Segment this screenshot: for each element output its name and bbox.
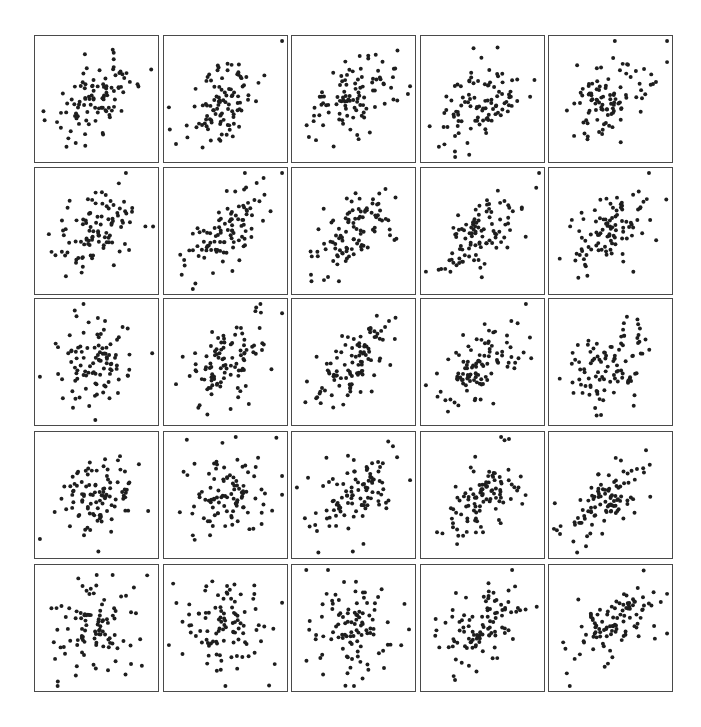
data-point xyxy=(608,97,612,101)
data-point xyxy=(489,371,493,375)
data-point xyxy=(588,532,592,536)
data-point xyxy=(596,370,600,374)
data-point xyxy=(486,608,490,612)
data-point xyxy=(352,458,356,462)
data-point xyxy=(361,542,365,546)
data-point xyxy=(513,584,517,588)
data-point xyxy=(73,397,77,401)
data-point xyxy=(579,91,583,95)
data-point xyxy=(219,380,223,384)
data-point xyxy=(89,225,93,229)
data-point xyxy=(499,240,503,244)
data-point xyxy=(612,391,616,395)
data-point xyxy=(582,639,586,643)
data-point xyxy=(220,76,224,80)
data-point xyxy=(225,189,229,193)
data-point xyxy=(346,527,350,531)
data-point xyxy=(500,614,504,618)
data-point xyxy=(348,128,352,132)
data-point xyxy=(101,391,105,395)
data-point xyxy=(507,361,511,365)
data-point xyxy=(595,413,599,417)
data-point xyxy=(500,625,504,629)
data-point xyxy=(641,466,645,470)
data-point xyxy=(460,227,464,231)
data-point xyxy=(648,495,652,499)
data-point xyxy=(233,365,237,369)
data-point xyxy=(125,71,129,75)
scatter-points xyxy=(292,168,415,294)
data-point xyxy=(324,247,328,251)
data-point xyxy=(604,509,608,513)
data-point xyxy=(474,361,478,365)
data-point xyxy=(320,615,324,619)
data-point xyxy=(472,470,476,474)
data-point xyxy=(102,352,106,356)
data-point xyxy=(215,382,219,386)
data-point xyxy=(641,608,645,612)
data-point xyxy=(340,79,344,83)
data-point xyxy=(378,217,382,221)
data-point xyxy=(603,245,607,249)
data-point xyxy=(189,631,193,635)
data-point xyxy=(597,472,601,476)
data-point xyxy=(344,216,348,220)
data-point xyxy=(595,342,599,346)
data-point xyxy=(615,498,619,502)
data-point xyxy=(489,489,493,493)
data-point xyxy=(450,258,454,262)
data-point xyxy=(204,102,208,106)
data-point xyxy=(354,477,358,481)
data-point xyxy=(308,619,312,623)
data-point xyxy=(473,455,477,459)
data-point xyxy=(197,612,201,616)
data-point xyxy=(509,345,513,349)
data-point xyxy=(607,124,611,128)
data-point xyxy=(251,527,255,531)
data-point xyxy=(456,113,460,117)
data-point xyxy=(149,68,153,72)
data-point xyxy=(407,627,411,631)
data-point xyxy=(621,252,625,256)
data-point xyxy=(92,89,96,93)
data-point xyxy=(576,516,580,520)
data-point xyxy=(222,623,226,627)
data-point xyxy=(103,235,107,239)
data-point xyxy=(94,643,98,647)
data-point xyxy=(434,617,438,621)
data-point xyxy=(620,376,624,380)
data-point xyxy=(477,204,481,208)
data-point xyxy=(140,664,144,668)
data-point xyxy=(342,580,346,584)
data-point xyxy=(270,509,274,513)
data-point xyxy=(50,250,54,254)
data-point xyxy=(479,245,483,249)
data-point xyxy=(361,677,365,681)
data-point xyxy=(506,216,510,220)
data-point xyxy=(624,96,628,100)
data-point xyxy=(495,611,499,615)
data-point xyxy=(345,249,349,253)
data-point xyxy=(594,375,598,379)
data-point xyxy=(595,392,599,396)
data-point xyxy=(478,123,482,127)
data-point xyxy=(345,114,349,118)
data-point xyxy=(193,538,197,542)
data-point xyxy=(236,386,240,390)
data-point xyxy=(80,350,84,354)
data-point xyxy=(77,122,81,126)
data-point xyxy=(581,87,585,91)
data-point xyxy=(118,454,122,458)
data-point xyxy=(480,275,484,279)
data-point xyxy=(201,145,205,149)
data-point xyxy=(614,630,618,634)
data-point xyxy=(629,379,633,383)
data-point xyxy=(571,351,575,355)
data-point xyxy=(424,383,428,387)
data-point xyxy=(602,217,606,221)
data-point xyxy=(242,338,246,342)
data-point xyxy=(74,674,78,678)
data-point xyxy=(596,355,600,359)
data-point xyxy=(109,362,113,366)
data-point xyxy=(451,608,455,612)
